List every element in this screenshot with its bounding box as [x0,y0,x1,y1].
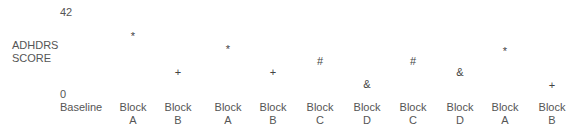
x-category-label: BlockB [527,101,576,127]
data-point-marker: * [503,45,507,56]
x-category-label: BlockD [435,101,485,127]
y-axis-label: ADHDRS SCORE [12,39,58,65]
x-category-label: BlockB [248,101,298,127]
x-category-label: BlockA [203,101,253,127]
data-point-marker: # [317,56,323,67]
x-category-label: BlockB [153,101,203,127]
data-point-marker: # [410,56,416,67]
x-category-label: BlockA [480,101,530,127]
x-category-label: BlockC [388,101,438,127]
data-point-marker: & [363,78,370,89]
x-category-label: BlockC [295,101,345,127]
y-axis-label-line1: ADHDRS [12,39,58,52]
data-point-marker: + [270,67,276,78]
y-axis-label-line2: SCORE [12,52,58,65]
y-tick-max: 42 [60,6,72,18]
data-point-marker: * [131,30,135,41]
data-point-marker: * [226,43,230,54]
x-category-label: BlockA [108,101,158,127]
data-point-marker: + [175,67,181,78]
y-tick-min: 0 [60,88,66,100]
x-category-label: BlockD [342,101,392,127]
data-point-marker: + [549,80,555,91]
data-point-marker: & [456,67,463,78]
